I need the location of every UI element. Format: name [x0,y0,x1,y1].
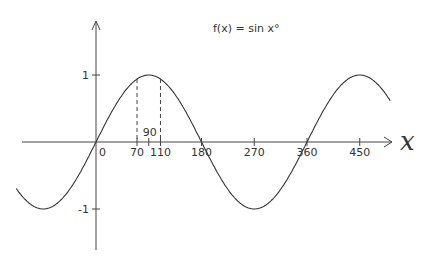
x-tick-label: 110 [150,146,171,159]
x-tick-label: 180 [191,146,212,159]
graph-title: f(x) = sin x° [213,22,279,35]
y-tick-label: 1 [82,69,89,82]
sine-graph: 07090110180270360450 1-1 f(x) = sin x° x [0,0,430,269]
x-tick-label: 0 [99,146,106,159]
x-tick-label: 360 [297,146,318,159]
x-tick-label: 450 [349,146,370,159]
x-tick-label: 70 [130,146,144,159]
x-tick-label: 270 [244,146,265,159]
x-tick-label: 90 [143,126,157,139]
x-axis-label: x [400,126,415,156]
y-tick-label: -1 [78,203,89,216]
